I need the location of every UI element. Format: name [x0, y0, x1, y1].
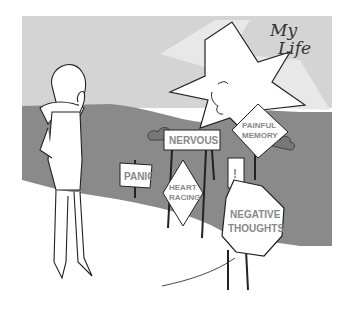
svg-text:THOUGHTS: THOUGHTS: [228, 223, 284, 234]
svg-text:RACING: RACING: [169, 193, 201, 202]
path-line: [162, 258, 235, 286]
sign-panic: PANIC: [120, 163, 154, 188]
svg-text:!: !: [233, 167, 237, 181]
svg-text:NEGATIVE: NEGATIVE: [230, 209, 281, 220]
svg-text:NERVOUS: NERVOUS: [169, 135, 219, 146]
my-life-title-2: Life: [277, 38, 311, 58]
sign-nervous: NERVOUS: [164, 130, 220, 150]
svg-text:PANIC: PANIC: [124, 171, 154, 182]
my-life-title: My: [269, 20, 297, 40]
svg-text:MEMORY: MEMORY: [242, 131, 278, 140]
illustration: My Life PANIC NERVOUS HEART RACING P: [0, 0, 353, 313]
svg-text:PAINFUL: PAINFUL: [242, 121, 276, 130]
svg-text:HEART: HEART: [169, 183, 197, 192]
